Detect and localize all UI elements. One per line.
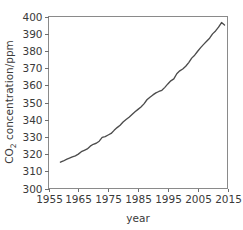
y-tick-label: 360 (22, 79, 42, 91)
x-tick-label: 1965 (65, 193, 92, 205)
x-axis-tick-labels: 1955196519751985199520052015 (36, 193, 242, 205)
x-axis-title-text: year (126, 212, 150, 224)
chart-figure: 300310320330340350360370380390400 195519… (0, 0, 243, 230)
co2-line-chart: 300310320330340350360370380390400 195519… (0, 0, 243, 230)
y-tick-label: 390 (22, 28, 42, 40)
x-axis-title: year (126, 212, 150, 224)
y-axis-tick-labels: 300310320330340350360370380390400 (22, 11, 42, 195)
y-tick-label: 370 (22, 62, 42, 74)
y-tick-label: 340 (22, 114, 42, 126)
y-tick-label: 310 (22, 165, 42, 177)
y-tick-label: 330 (22, 131, 42, 143)
y-tick-label: 400 (22, 11, 42, 23)
x-tick-label: 1975 (95, 193, 122, 205)
x-tick-label: 2005 (185, 193, 212, 205)
x-tick-label: 1985 (125, 193, 152, 205)
x-tick-label: 1995 (155, 193, 182, 205)
y-tick-label: 380 (22, 45, 42, 57)
y-axis-title-post: concentration/ppm (3, 40, 15, 143)
x-tick-label: 2015 (215, 193, 242, 205)
y-tick-label: 320 (22, 148, 42, 160)
x-tick-label: 1955 (36, 193, 63, 205)
y-axis-title-pre: CO (3, 148, 15, 164)
y-tick-label: 350 (22, 97, 42, 109)
